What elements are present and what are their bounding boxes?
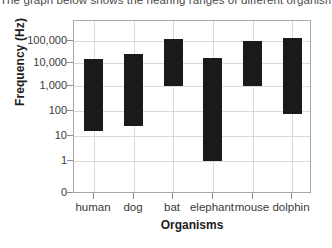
y-tick-mark <box>67 192 73 193</box>
gridline-horizontal <box>74 136 310 137</box>
y-tick-mark <box>67 160 73 161</box>
bar-bat <box>164 39 183 86</box>
bar-chart-figure: Frequency (Hz) 100,00010,0001,0001001010… <box>0 0 332 248</box>
y-tick-mark <box>67 110 73 111</box>
y-tick-label: 10,000 <box>33 56 67 68</box>
x-tick-mark <box>212 193 213 199</box>
x-tick-label-dog: dog <box>123 201 142 213</box>
bar-dolphin <box>283 38 302 114</box>
bar-human <box>84 59 103 131</box>
y-tick-mark <box>67 40 73 41</box>
x-tick-mark <box>291 193 292 199</box>
gridline-horizontal <box>74 63 310 64</box>
y-tick-label: 1,000 <box>39 79 67 91</box>
x-axis-title: Organisms <box>73 218 311 232</box>
bar-mouse <box>243 41 262 86</box>
y-tick-label: 10 <box>55 129 67 141</box>
x-tick-mark <box>93 193 94 199</box>
x-tick-label-mouse: mouse <box>235 201 270 213</box>
y-axis-title: Frequency (Hz) <box>13 0 27 132</box>
y-tick-label: 100 <box>49 104 67 116</box>
y-tick-mark <box>67 85 73 86</box>
plot-area <box>73 20 311 193</box>
x-tick-mark <box>133 193 134 199</box>
x-tick-label-bat: bat <box>164 201 180 213</box>
x-tick-label-dolphin: dolphin <box>272 201 309 213</box>
y-tick-label: 100,000 <box>27 34 67 46</box>
y-tick-mark <box>67 62 73 63</box>
plot-inner <box>74 21 310 192</box>
y-tick-mark <box>67 135 73 136</box>
bar-dog <box>124 54 143 126</box>
x-tick-mark <box>252 193 253 199</box>
x-tick-label-human: human <box>75 201 110 213</box>
gridline-horizontal <box>74 111 310 112</box>
bar-elephant <box>203 58 222 161</box>
gridline-horizontal <box>74 41 310 42</box>
gridline-horizontal <box>74 86 310 87</box>
x-tick-mark <box>172 193 173 199</box>
gridline-horizontal <box>74 161 310 162</box>
x-tick-label-elephant: elephant <box>190 201 234 213</box>
